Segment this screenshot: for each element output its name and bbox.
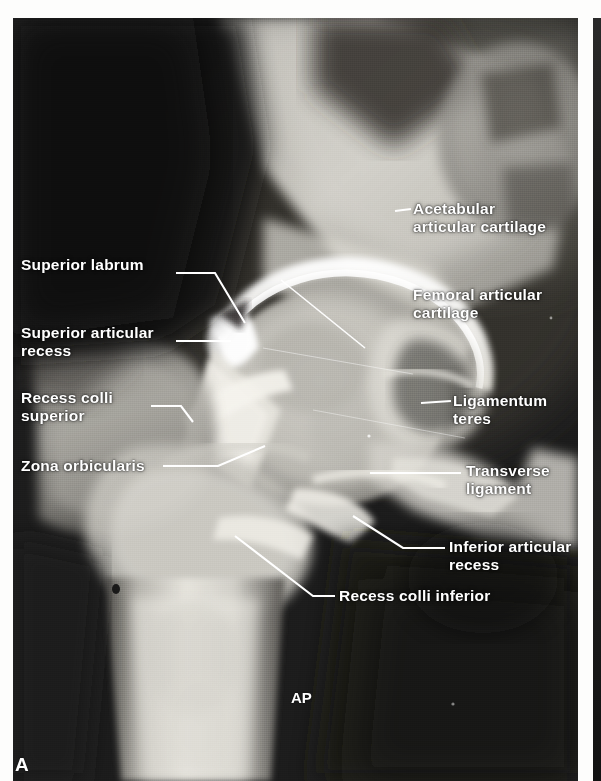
radiograph-panel-a: Superior labrum Superior articular reces… <box>13 18 578 781</box>
label-ligamentum-teres: Ligamentum teres <box>453 392 547 428</box>
page-left-margin <box>0 0 13 781</box>
label-transverse-ligament: Transverse ligament <box>466 462 550 498</box>
panel-letter-a: A <box>15 754 29 776</box>
label-inferior-articular-recess: Inferior articular recess <box>449 538 571 574</box>
label-acetabular-articular-cartilage: Acetabular articular cartilage <box>413 200 546 236</box>
figure-page: Superior labrum Superior articular reces… <box>0 0 601 781</box>
label-superior-articular-recess: Superior articular recess <box>21 324 154 360</box>
label-superior-labrum: Superior labrum <box>21 256 144 274</box>
label-femoral-articular-cartilage: Femoral articular cartilage <box>413 286 542 322</box>
label-zona-orbicularis: Zona orbicularis <box>21 457 145 475</box>
label-recess-colli-superior: Recess colli superior <box>21 389 113 425</box>
page-top-margin <box>0 0 601 18</box>
label-recess-colli-inferior: Recess colli inferior <box>339 587 491 605</box>
adjacent-panel-b-sliver <box>593 18 601 781</box>
panel-gutter <box>578 0 593 781</box>
view-tag-ap: AP <box>291 689 312 706</box>
